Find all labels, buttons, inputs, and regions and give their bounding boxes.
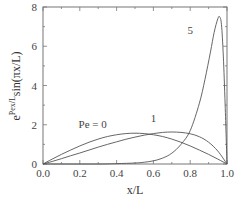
y-label-tail: sin(πx/L) <box>9 51 23 96</box>
curve-annotation: 1 <box>151 112 157 124</box>
y-tick-label: 4 <box>32 80 38 92</box>
curve-pe0 <box>43 133 227 164</box>
y-tick-label: 8 <box>32 1 38 13</box>
y-label-exponent: Pex/L <box>8 96 17 115</box>
y-axis-tick-labels: 02468 <box>32 1 38 170</box>
y-axis-label: ePex/Lsin(πx/L) <box>8 51 23 120</box>
y-tick-label: 2 <box>32 119 38 131</box>
plot-frame <box>43 7 227 164</box>
x-axis-tick-labels: 0.00.20.40.60.81.0 <box>36 167 234 179</box>
curve-annotation: 5 <box>187 24 193 36</box>
x-tick-label: 0.4 <box>110 167 124 179</box>
x-tick-label: 0.6 <box>147 167 161 179</box>
line-chart: 0.00.20.40.60.81.0 02468 Pe = 015 x/L eP… <box>0 0 239 200</box>
curve-annotations: Pe = 015 <box>79 24 194 129</box>
y-tick-label: 0 <box>32 158 38 170</box>
x-tick-label: 1.0 <box>220 167 234 179</box>
curve-pe1 <box>43 132 227 164</box>
x-tick-label: 0.8 <box>183 167 197 179</box>
x-axis-label: x/L <box>127 183 144 197</box>
x-tick-label: 0.2 <box>73 167 87 179</box>
plot-area-border <box>43 7 227 164</box>
curve-annotation: Pe = 0 <box>79 118 108 130</box>
y-axis-label-text: ePex/Lsin(πx/L) <box>8 51 23 120</box>
data-curves <box>43 16 227 164</box>
y-tick-label: 6 <box>32 40 38 52</box>
x-tick-label: 0.0 <box>36 167 50 179</box>
axis-ticks <box>43 7 227 164</box>
curve-pe5 <box>43 16 227 164</box>
